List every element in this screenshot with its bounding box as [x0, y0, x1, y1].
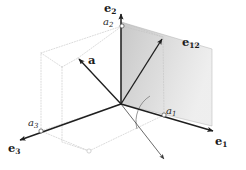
marker-a3	[39, 129, 43, 133]
figure-canvas	[0, 0, 246, 170]
label-e2: e2	[104, 3, 117, 15]
marker-base-point	[87, 149, 91, 153]
marker-a2	[120, 24, 124, 28]
label-a2: a2	[103, 17, 113, 27]
vector-decomposition-figure: e2 a2 e12 a a1 a3 e3 e1	[0, 0, 246, 170]
label-e12: e12	[182, 37, 200, 49]
label-e1: e1	[215, 136, 228, 148]
vector-a	[79, 59, 121, 104]
label-vector-a: a	[88, 55, 95, 67]
label-e3: e3	[8, 143, 21, 155]
label-a1: a1	[166, 106, 176, 116]
label-a3: a3	[28, 118, 38, 128]
